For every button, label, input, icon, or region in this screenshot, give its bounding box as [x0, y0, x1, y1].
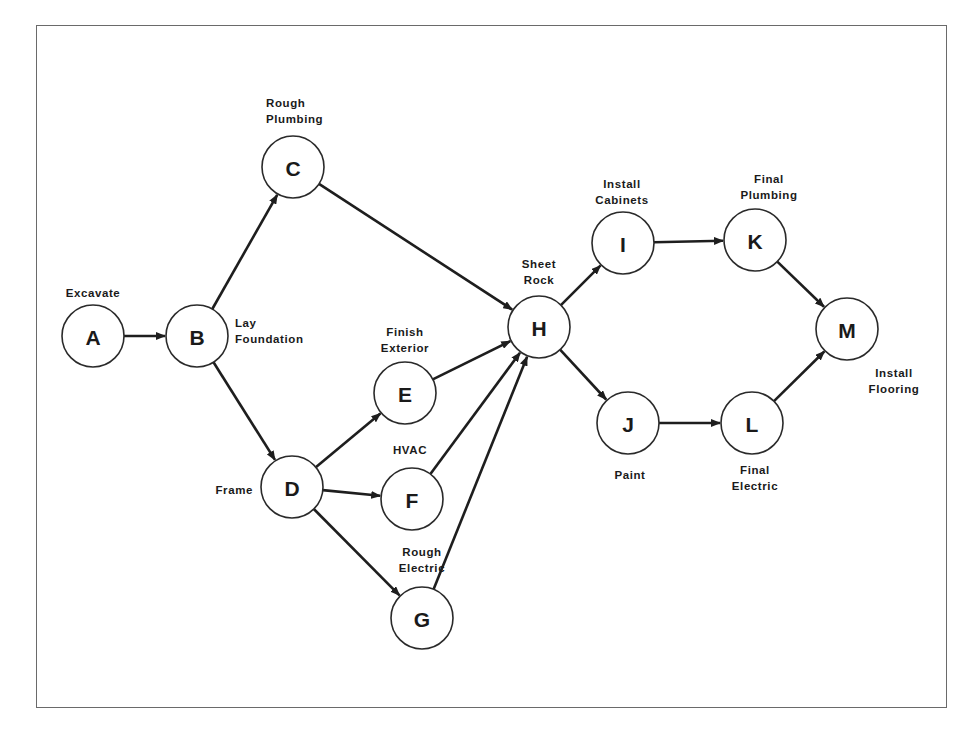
edge-b-c [212, 195, 277, 309]
node-d: D [261, 456, 323, 518]
node-label-line: Final [740, 464, 770, 476]
node-letter: B [189, 326, 204, 349]
node-label-b: LayFoundation [235, 317, 304, 345]
node-label-line: Plumbing [266, 113, 323, 125]
edge-g-h [434, 357, 527, 590]
node-letter: G [414, 608, 430, 631]
node-letter: E [398, 383, 412, 406]
node-letter: H [531, 317, 546, 340]
node-letter: D [284, 477, 299, 500]
node-g: G [391, 587, 453, 649]
node-label-e: FinishExterior [381, 326, 429, 354]
node-label-line: Lay [235, 317, 257, 329]
node-k: K [724, 209, 786, 271]
node-letter: M [838, 319, 856, 342]
node-label-line: Electric [732, 480, 778, 492]
node-label-line: Frame [215, 484, 253, 496]
node-h: H [508, 296, 570, 358]
node-label-line: Plumbing [740, 189, 797, 201]
node-label-j: Paint [614, 469, 645, 481]
node-letter: J [622, 413, 634, 436]
node-label-line: Finish [386, 326, 423, 338]
edge-d-f [323, 490, 380, 496]
node-label-l: FinalElectric [732, 464, 778, 492]
node-label-line: Excavate [66, 287, 121, 299]
node-label-f: HVAC [393, 444, 427, 456]
precedence-network-diagram: ABCDEFGHIJKLM ExcavateLayFoundationRough… [0, 0, 973, 729]
node-m: M [816, 298, 878, 360]
node-label-line: Exterior [381, 342, 429, 354]
edge-d-e [316, 414, 381, 468]
node-letter: C [285, 157, 300, 180]
edge-c-h [319, 184, 512, 310]
node-label-line: HVAC [393, 444, 427, 456]
node-label-h: SheetRock [522, 258, 556, 286]
edge-i-k [654, 241, 723, 243]
node-label-k: FinalPlumbing [740, 173, 797, 201]
edge-k-m [777, 262, 824, 307]
node-label-line: Rough [266, 97, 305, 109]
node-i: I [592, 212, 654, 274]
node-label-line: Flooring [869, 383, 920, 395]
edge-b-d [214, 362, 276, 460]
edge-f-h [430, 353, 520, 474]
edge-d-g [314, 509, 400, 595]
edge-e-h [433, 341, 511, 379]
node-label-line: Final [754, 173, 784, 185]
node-letter: I [620, 233, 626, 256]
node-label-g: RoughElectric [399, 546, 445, 574]
node-label-line: Rough [402, 546, 441, 558]
node-l: L [721, 392, 783, 454]
node-a: A [62, 305, 124, 367]
edge-l-m [774, 352, 824, 402]
node-b: B [166, 305, 228, 367]
node-c: C [262, 136, 324, 198]
node-letter: L [746, 413, 759, 436]
node-label-line: Foundation [235, 333, 304, 345]
node-label-c: RoughPlumbing [266, 97, 323, 125]
nodes-layer: ABCDEFGHIJKLM [62, 136, 878, 649]
node-label-line: Install [603, 178, 640, 190]
node-label-line: Electric [399, 562, 445, 574]
node-letter: A [85, 326, 100, 349]
node-label-line: Cabinets [595, 194, 648, 206]
node-e: E [374, 362, 436, 424]
edge-h-i [561, 266, 601, 306]
edge-h-j [560, 350, 606, 400]
node-label-line: Rock [524, 274, 555, 286]
edges-layer [124, 184, 824, 595]
node-label-i: InstallCabinets [595, 178, 648, 206]
node-j: J [597, 392, 659, 454]
node-label-m: InstallFlooring [869, 367, 920, 395]
node-f: F [381, 468, 443, 530]
node-letter: K [747, 230, 762, 253]
node-label-line: Install [875, 367, 912, 379]
node-label-a: Excavate [66, 287, 121, 299]
node-label-line: Paint [614, 469, 645, 481]
node-label-d: Frame [215, 484, 253, 496]
node-letter: F [406, 489, 419, 512]
node-label-line: Sheet [522, 258, 556, 270]
